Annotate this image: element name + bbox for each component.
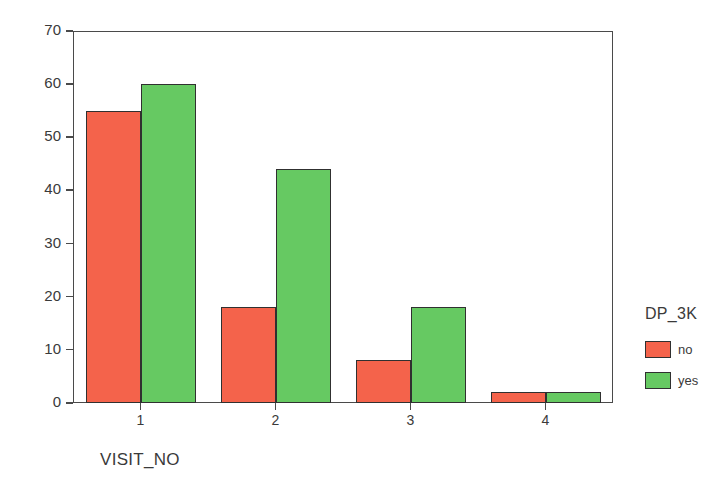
y-tick-mark xyxy=(66,30,73,32)
bar-1-no xyxy=(86,111,141,403)
x-tick-label: 2 xyxy=(256,412,296,428)
x-tick-label: 4 xyxy=(526,412,566,428)
y-tick-mark xyxy=(66,402,73,404)
bar-4-yes xyxy=(546,392,601,403)
y-tick-label: 40 xyxy=(44,180,61,197)
x-tick-label: 3 xyxy=(391,412,431,428)
legend-label-yes: yes xyxy=(678,373,698,388)
legend-swatch-no xyxy=(645,341,671,358)
x-tick-mark xyxy=(140,403,142,410)
x-tick-mark xyxy=(545,403,547,410)
y-tick-label: 10 xyxy=(44,340,61,357)
bar-chart: Count 010203040506070 1234 VISIT_NO DP_3… xyxy=(0,0,722,497)
y-tick-mark xyxy=(66,349,73,351)
legend-item-yes: yes xyxy=(645,372,722,389)
bar-2-no xyxy=(221,307,276,403)
y-tick-label: 0 xyxy=(53,393,61,410)
bar-3-yes xyxy=(411,307,466,403)
y-tick-label: 70 xyxy=(44,21,61,38)
y-tick-label: 20 xyxy=(44,287,61,304)
bar-4-no xyxy=(491,392,546,403)
x-tick-mark xyxy=(275,403,277,410)
y-tick-mark xyxy=(66,243,73,245)
legend-swatch-yes xyxy=(645,372,671,389)
x-axis-label: VISIT_NO xyxy=(100,450,180,470)
y-tick-label: 60 xyxy=(44,74,61,91)
y-tick-mark xyxy=(66,136,73,138)
legend: DP_3K noyes xyxy=(645,305,722,403)
bar-3-no xyxy=(356,360,411,403)
y-tick-mark xyxy=(66,83,73,85)
y-tick-label: 50 xyxy=(44,127,61,144)
y-axis-label: Count xyxy=(0,120,2,240)
x-tick-label: 1 xyxy=(121,412,161,428)
legend-label-no: no xyxy=(678,342,692,357)
y-tick-mark xyxy=(66,189,73,191)
bar-2-yes xyxy=(276,169,331,403)
legend-item-no: no xyxy=(645,341,722,358)
y-tick-mark xyxy=(66,296,73,298)
legend-title: DP_3K xyxy=(645,305,722,323)
bar-1-yes xyxy=(141,84,196,403)
x-tick-mark xyxy=(410,403,412,410)
y-tick-label: 30 xyxy=(44,234,61,251)
